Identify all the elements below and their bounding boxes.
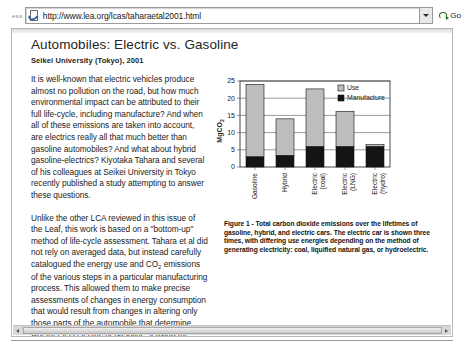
chart-svg: 0510152025 GasolineHybridElectric(coal)E… (210, 75, 426, 217)
svg-text:(hydro): (hydro) (379, 173, 387, 194)
y-tick-label: 5 (231, 146, 235, 153)
horizontal-scrollbar[interactable] (13, 325, 451, 335)
bar-segment-manufacture (306, 146, 324, 167)
bar-segment-manufacture (336, 146, 354, 167)
page-viewport: Automobiles: Electric vs. Gasoline Seike… (11, 28, 453, 337)
svg-text:Hybrid: Hybrid (281, 173, 289, 192)
figure-caption: Figure 1 - Total carbon dioxide emission… (214, 220, 442, 254)
window-bottom-rule (11, 340, 453, 341)
y-tick-label: 25 (227, 77, 235, 84)
legend-swatch (338, 85, 344, 91)
scroll-right-button[interactable] (442, 326, 451, 335)
svg-text:Electric: Electric (341, 172, 348, 194)
x-tick-label: Electric(LNG) (341, 172, 356, 194)
internet-explorer-page-icon (28, 10, 40, 22)
url-input[interactable]: http://www.lea.org/lcas/taharaetal2001.h… (25, 7, 419, 24)
arrow-right-icon (445, 329, 448, 333)
page-subtitle: Seikei University (Tokyo), 2001 (31, 56, 442, 65)
figure-column: 0510152025 GasolineHybridElectric(coal)E… (214, 74, 442, 254)
bar-segment-use (276, 119, 294, 155)
figure-1: 0510152025 GasolineHybridElectric(coal)E… (214, 75, 442, 254)
arrow-left-icon (16, 329, 19, 333)
url-history-dropdown-button[interactable] (419, 7, 433, 24)
bar-segment-use (366, 145, 384, 147)
svg-text:Electric: Electric (371, 172, 378, 194)
go-button[interactable]: Go (433, 10, 465, 21)
y-tick-label: 10 (227, 129, 235, 136)
bar-segment-manufacture (246, 157, 264, 167)
address-bar-prefix-label: ess (0, 13, 25, 19)
x-tick-label: Electric(hydro) (371, 172, 386, 194)
svg-text:Gasoline: Gasoline (251, 173, 258, 199)
text-column: It is well-known that electric vehicles … (31, 74, 214, 337)
two-column-layout: It is well-known that electric vehicles … (31, 74, 442, 337)
stacked-bar-chart: 0510152025 GasolineHybridElectric(coal)E… (210, 75, 426, 217)
bar-segment-use (336, 111, 354, 146)
x-tick-label: Gasoline (251, 173, 258, 199)
y-tick-label: 0 (231, 163, 235, 170)
scroll-left-button[interactable] (13, 326, 22, 335)
bar-segment-manufacture (366, 146, 384, 167)
browser-window: ess http://www.lea.org/lcas/taharaetal20… (0, 0, 465, 349)
bar-segment-manufacture (276, 155, 294, 167)
go-arrow-icon (438, 10, 449, 21)
legend-swatch (338, 95, 344, 101)
address-bar: ess http://www.lea.org/lcas/taharaetal20… (0, 6, 465, 25)
scrollbar-thumb[interactable] (23, 327, 442, 334)
svg-text:Electric: Electric (311, 172, 318, 194)
document-content: Automobiles: Electric vs. Gasoline Seike… (12, 33, 452, 326)
paragraph-1: It is well-known that electric vehicles … (31, 74, 208, 202)
paragraph-2: Unlike the other LCA reviewed in this is… (31, 213, 208, 337)
y-tick-label: 15 (227, 112, 235, 119)
go-button-label: Go (450, 11, 461, 20)
url-text: http://www.lea.org/lcas/taharaetal2001.h… (43, 11, 201, 21)
bar-segment-use (246, 84, 264, 156)
page-title: Automobiles: Electric vs. Gasoline (31, 37, 442, 52)
svg-text:(LNG): (LNG) (349, 173, 357, 191)
legend-label: Use (347, 84, 359, 91)
chevron-down-icon (423, 14, 429, 17)
svg-text:(coal): (coal) (319, 173, 327, 190)
bar-segment-use (306, 89, 324, 146)
x-tick-label: Electric(coal) (311, 172, 326, 194)
x-tick-label: Hybrid (281, 173, 289, 192)
y-tick-label: 20 (227, 95, 235, 102)
legend-label: Manufacture (347, 94, 385, 101)
co2-subscript: 2 (158, 264, 161, 270)
y-axis-label: MgCO2 (216, 119, 225, 143)
